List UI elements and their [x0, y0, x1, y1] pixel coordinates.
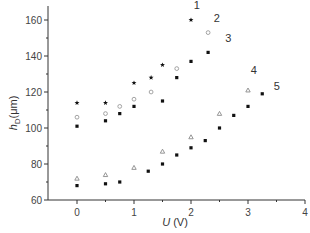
square-marker [161, 162, 164, 165]
square-marker [118, 112, 121, 115]
y-tick-label: 140 [25, 51, 42, 62]
square-marker [75, 125, 78, 128]
x-axis-title: U (V) [162, 216, 188, 228]
axes [48, 6, 305, 200]
data-points [75, 17, 264, 187]
y-tick-label: 120 [25, 87, 42, 98]
series-labels: 12345 [194, 0, 280, 92]
square-marker [204, 139, 207, 142]
circle-marker [104, 112, 108, 116]
x-tick-label: 0 [74, 207, 80, 218]
x-tick-label: 3 [245, 207, 251, 218]
square-marker [207, 51, 210, 54]
series-label-5: 5 [274, 80, 280, 92]
square-marker [161, 99, 164, 102]
x-axis-variable: U [162, 216, 170, 228]
square-marker [261, 92, 264, 95]
triangle-marker [75, 176, 79, 180]
square-marker [118, 180, 121, 183]
y-tick-label: 80 [31, 159, 43, 170]
square-marker [232, 114, 235, 117]
triangle-marker [246, 88, 250, 92]
star-marker [149, 75, 154, 80]
star-marker [75, 100, 80, 105]
circle-marker [206, 31, 210, 35]
series-label-2: 2 [214, 12, 220, 24]
square-marker [104, 119, 107, 122]
square-marker [218, 126, 221, 129]
square-marker [246, 105, 249, 108]
triangle-marker [132, 165, 136, 169]
y-axis-title: hD(μm) [7, 96, 22, 131]
square-marker [132, 105, 135, 108]
square-marker [75, 184, 78, 187]
series-label-4: 4 [251, 64, 257, 76]
triangle-marker [217, 111, 221, 115]
x-tick-label: 1 [131, 207, 137, 218]
x-tick-label: 4 [302, 207, 308, 218]
series-label-1: 1 [194, 0, 200, 11]
y-axis-unit: (μm) [7, 96, 19, 119]
x-tick-label: 2 [188, 207, 194, 218]
triangle-marker [103, 173, 107, 177]
square-marker [189, 146, 192, 149]
y-tick-label: 160 [25, 15, 42, 26]
circle-marker [132, 97, 136, 101]
square-marker [104, 182, 107, 185]
circle-marker [175, 67, 179, 71]
circle-marker [118, 105, 122, 109]
series-label-3: 3 [225, 32, 231, 44]
star-marker [160, 62, 165, 67]
x-axis-unit: (V) [170, 216, 188, 228]
square-marker [189, 60, 192, 63]
circle-marker [75, 115, 79, 119]
square-marker [147, 170, 150, 173]
star-marker [189, 17, 194, 22]
square-marker [175, 76, 178, 79]
y-tick-label: 60 [31, 195, 43, 206]
square-marker [175, 153, 178, 156]
circle-marker [149, 90, 153, 94]
triangle-marker [189, 135, 193, 139]
y-tick-label: 100 [25, 123, 42, 134]
star-marker [103, 100, 108, 105]
axis-ticks: 608010012014016001234 [25, 15, 308, 219]
triangle-marker [160, 149, 164, 153]
star-marker [132, 80, 137, 85]
scatter-chart: 608010012014016001234 12345 U (V) hD(μm) [0, 0, 310, 233]
